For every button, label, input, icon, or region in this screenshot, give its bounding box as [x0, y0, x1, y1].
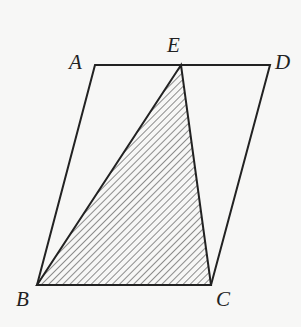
shaded-triangle-ebc — [37, 65, 211, 285]
geometry-figure: A E D B C — [0, 0, 301, 327]
label-a: A — [67, 50, 82, 74]
label-d: D — [274, 50, 290, 74]
label-b: B — [16, 287, 29, 311]
parallelogram-diagram: A E D B C — [0, 0, 301, 327]
label-e: E — [166, 33, 180, 57]
label-c: C — [216, 287, 231, 311]
